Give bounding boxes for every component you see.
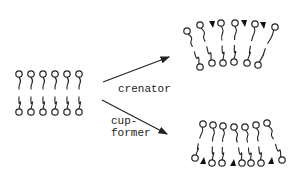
lipid-head-icon [220, 123, 226, 129]
lipid-tail [259, 146, 262, 159]
lipid-tail [79, 77, 81, 89]
lipid-tail [200, 127, 203, 138]
lipid-tail [246, 130, 248, 142]
lipid-head-icon [231, 59, 237, 65]
lipid-head-icon [219, 160, 225, 166]
lipid-head-icon [197, 64, 203, 70]
lipid-tail [201, 28, 205, 42]
lipid-tail [196, 143, 199, 154]
lipid-tail [222, 147, 224, 160]
lipid-tail [248, 147, 251, 159]
lipid-head-icon [253, 122, 259, 128]
lipid-tail [268, 126, 273, 139]
lipid-tail [188, 34, 193, 47]
lipid-head-icon [16, 71, 22, 77]
crenator-wedge-icon [260, 22, 266, 29]
lipid-tail [275, 144, 280, 157]
lipid-head-icon [209, 160, 215, 166]
crenator-wedge-icon [209, 21, 215, 28]
lipid-tail [259, 48, 265, 62]
lipid-head-icon [210, 122, 216, 128]
lipid-head-icon [218, 20, 224, 26]
cupformer-label-line2: former [111, 127, 151, 139]
lipid-tail [252, 27, 255, 41]
lipid-head-icon [279, 157, 285, 163]
lipid-tail [67, 97, 69, 109]
lipid-head-icon [272, 24, 278, 30]
lipid-head-icon [255, 62, 261, 68]
lipid-tail [31, 97, 33, 109]
lipid-tail [223, 129, 225, 142]
lipid-head-icon [52, 71, 58, 77]
lipid-head-icon [244, 60, 250, 66]
lipid-tail [55, 97, 57, 109]
lipid-tail [67, 77, 69, 89]
lipid-head-icon [220, 60, 226, 66]
lipid-head-icon [76, 71, 82, 77]
lipid-head-icon [264, 120, 270, 126]
lipid-tail [194, 51, 199, 64]
crenator-label: crenator [118, 83, 171, 95]
lipid-tail [221, 26, 223, 40]
lipid-head-icon [239, 160, 245, 166]
lipid-tail [213, 128, 215, 141]
cupformer-label-line1: cup- [111, 115, 137, 127]
lipid-head-icon [76, 109, 82, 115]
lipid-head-icon [258, 160, 264, 166]
lipid-head-icon [209, 60, 215, 66]
cupformer-wedge-icon [230, 159, 236, 166]
crenator-wedge-icon [241, 20, 247, 27]
lipid-tail [43, 77, 45, 89]
lipid-tail [222, 45, 224, 59]
lipid-head-icon [200, 121, 206, 127]
lipid-head-icon [252, 21, 258, 27]
lipid-head-icon [16, 109, 22, 115]
lipid-tail [55, 77, 57, 89]
lipid-tail [235, 130, 238, 142]
lipid-tail [207, 46, 211, 60]
lipid-head-icon [231, 124, 237, 130]
cupformer-wedge-icon [200, 157, 206, 164]
lipid-tail [212, 146, 214, 159]
lipid-tail [19, 97, 21, 109]
lipid-head-icon [40, 109, 46, 115]
lipid-tail [268, 30, 274, 44]
crenator-arrow [103, 57, 169, 82]
lipid-head-icon [242, 124, 248, 130]
lipid-head-icon [197, 22, 203, 28]
lipid-head-icon [192, 155, 198, 161]
lipid-head-icon [28, 71, 34, 77]
lipid-tail [248, 46, 251, 60]
lipid-tail [256, 128, 258, 141]
lipid-tail [239, 147, 242, 159]
lipid-head-icon [52, 109, 58, 115]
cupped-bilayer [192, 120, 285, 166]
initial-bilayer [16, 71, 82, 115]
crenated-bilayer [184, 20, 278, 70]
lipid-tail [19, 77, 21, 89]
lipid-tail [79, 97, 81, 109]
lipid-head-icon [64, 71, 70, 77]
lipid-tail [234, 45, 236, 59]
lipid-head-icon [28, 109, 34, 115]
lipid-tail [43, 97, 45, 109]
lipid-head-icon [232, 20, 238, 26]
cupformer-wedge-icon [268, 157, 274, 164]
lipid-head-icon [40, 71, 46, 77]
lipid-tail [31, 77, 33, 89]
lipid-head-icon [184, 28, 190, 34]
lipid-head-icon [248, 160, 254, 166]
lipid-tail [235, 26, 237, 40]
lipid-head-icon [64, 109, 70, 115]
